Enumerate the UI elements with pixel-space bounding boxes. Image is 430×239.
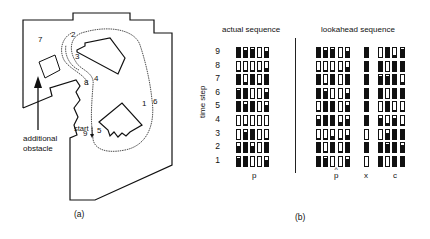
unit-activation-cell — [316, 61, 321, 72]
unit-activation-cell — [257, 142, 262, 153]
unit-activation-cell — [345, 74, 350, 85]
arrow-icon — [34, 76, 42, 88]
unit-activation-cell — [364, 115, 369, 126]
lookahead-xlabel-c: c — [393, 171, 397, 180]
unit-activation-cell — [392, 129, 397, 140]
unit-activation-cell — [330, 142, 335, 153]
waypoint-label: 6 — [153, 97, 157, 106]
p-hat-label: p — [334, 173, 338, 179]
start-label: start — [74, 124, 89, 133]
unit-activation-cell — [330, 47, 335, 58]
time-step-tick: 8 — [210, 60, 220, 70]
unit-activation-cell — [345, 88, 350, 99]
unit-activation-cell — [378, 101, 383, 112]
unit-activation-cell — [250, 115, 255, 126]
unit-activation-cell — [316, 47, 321, 58]
unit-activation-cell — [250, 88, 255, 99]
unit-activation-cell — [338, 74, 343, 85]
unit-activation-cell — [364, 88, 369, 99]
unit-activation-cell — [243, 74, 248, 85]
unit-activation-cell — [316, 115, 321, 126]
unit-activation-cell — [392, 115, 397, 126]
unit-activation-cell — [400, 156, 405, 167]
unit-activation-cell — [378, 88, 383, 99]
unit-activation-cell — [392, 142, 397, 153]
lower-obstacle — [99, 103, 142, 137]
unit-activation-cell — [345, 156, 350, 167]
upper-obstacle — [77, 38, 125, 74]
unit-activation-cell — [236, 142, 241, 153]
time-step-tick: 9 — [210, 46, 220, 56]
unit-activation-cell — [243, 129, 248, 140]
unit-activation-cell — [338, 47, 343, 58]
unit-activation-cell — [364, 47, 369, 58]
unit-activation-cell — [392, 61, 397, 72]
unit-activation-cell — [330, 61, 335, 72]
time-step-tick: 4 — [210, 114, 220, 124]
unit-activation-cell — [236, 129, 241, 140]
waypoint-label: 7 — [38, 35, 42, 44]
unit-activation-cell — [323, 129, 328, 140]
unit-activation-cell — [316, 88, 321, 99]
unit-activation-cell — [400, 101, 405, 112]
unit-activation-cell — [345, 129, 350, 140]
time-step-tick: 2 — [210, 141, 220, 151]
unit-activation-cell — [250, 129, 255, 140]
unit-activation-cell — [323, 61, 328, 72]
unit-activation-cell — [400, 115, 405, 126]
actual-xlabel: p — [252, 171, 256, 180]
unit-activation-cell — [236, 47, 241, 58]
unit-activation-cell — [400, 74, 405, 85]
unit-activation-cell — [385, 115, 390, 126]
unit-activation-cell — [243, 142, 248, 153]
unit-activation-cell — [330, 88, 335, 99]
annotation-line2: obstacle — [23, 144, 53, 153]
unit-activation-cell — [364, 61, 369, 72]
unit-activation-cell — [236, 88, 241, 99]
unit-activation-cell — [264, 142, 269, 153]
unit-activation-cell — [338, 115, 343, 126]
waypoint-label: 1 — [142, 99, 146, 108]
time-step-tick: 3 — [210, 128, 220, 138]
unit-activation-cell — [236, 156, 241, 167]
unit-activation-cell — [323, 88, 328, 99]
additional-obstacle — [39, 55, 60, 78]
waypoint-label: 8 — [84, 78, 88, 87]
unit-activation-cell — [323, 101, 328, 112]
unit-activation-cell — [257, 156, 262, 167]
unit-activation-cell — [250, 142, 255, 153]
unit-activation-cell — [257, 47, 262, 58]
waypoint-label: 2 — [71, 30, 75, 39]
unit-activation-cell — [243, 61, 248, 72]
unit-activation-cell — [323, 142, 328, 153]
environment-map — [0, 0, 215, 239]
unit-activation-cell — [264, 101, 269, 112]
unit-activation-cell — [392, 74, 397, 85]
actual-sequence-title: actual sequence — [222, 25, 280, 34]
unit-activation-cell — [378, 129, 383, 140]
unit-activation-cell — [338, 88, 343, 99]
unit-activation-cell — [257, 129, 262, 140]
unit-activation-cell — [400, 47, 405, 58]
divider-line — [295, 38, 296, 173]
unit-activation-cell — [338, 142, 343, 153]
unit-activation-cell — [250, 61, 255, 72]
unit-activation-cell — [378, 47, 383, 58]
time-step-tick: 6 — [210, 87, 220, 97]
unit-activation-cell — [385, 142, 390, 153]
unit-activation-cell — [400, 88, 405, 99]
unit-activation-cell — [316, 156, 321, 167]
unit-activation-cell — [323, 115, 328, 126]
unit-activation-cell — [378, 156, 383, 167]
unit-activation-cell — [316, 74, 321, 85]
unit-activation-cell — [236, 101, 241, 112]
unit-activation-cell — [364, 101, 369, 112]
unit-activation-cell — [345, 142, 350, 153]
unit-activation-cell — [264, 129, 269, 140]
unit-activation-cell — [316, 101, 321, 112]
time-step-tick: 7 — [210, 73, 220, 83]
unit-activation-cell — [385, 74, 390, 85]
unit-activation-cell — [330, 101, 335, 112]
unit-activation-cell — [330, 74, 335, 85]
caption-b: (b) — [295, 212, 305, 222]
